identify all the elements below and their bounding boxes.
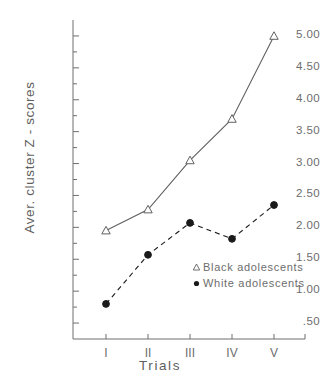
legend-item: White adolescents: [190, 275, 305, 291]
data-point-marker: [271, 202, 278, 209]
data-point-marker: [270, 32, 278, 40]
axes: [73, 20, 305, 339]
chart-figure: Aver. cluster Z - scores Trials .501.001…: [0, 0, 320, 389]
filled-circle-icon: [190, 278, 203, 289]
open-triangle-icon: [190, 262, 203, 273]
data-point-marker: [102, 226, 110, 234]
data-point-marker: [145, 251, 152, 258]
data-point-marker: [229, 235, 236, 242]
series-line: [106, 36, 274, 231]
legend-label: Black adolescents: [203, 261, 304, 273]
legend-item: Black adolescents: [190, 259, 305, 275]
data-point-marker: [228, 115, 236, 123]
data-point-marker: [103, 301, 110, 308]
legend-label: White adolescents: [203, 277, 305, 289]
chart-legend: Black adolescentsWhite adolescents: [190, 259, 305, 291]
data-point-marker: [187, 219, 194, 226]
plot-area: [0, 0, 320, 389]
